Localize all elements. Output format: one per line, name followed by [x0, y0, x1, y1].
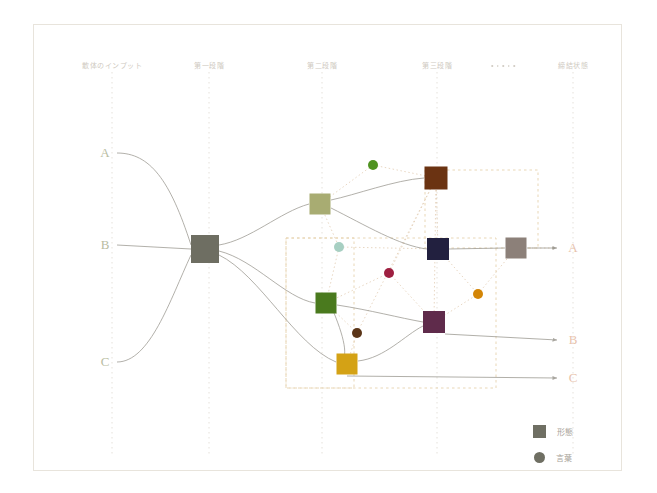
- form-edge: [219, 204, 309, 245]
- input-label-b: B: [101, 237, 110, 253]
- stage-header-stage2: 第二段階: [307, 60, 337, 70]
- form-edge: [331, 208, 427, 249]
- node-square-s2c[interactable]: [423, 311, 445, 333]
- node-circle-c1[interactable]: [368, 160, 378, 170]
- legend: 形態 言葉: [533, 418, 613, 470]
- form-edge: [445, 334, 557, 340]
- form-edge: [358, 326, 423, 361]
- stage-guide-lines: [112, 72, 573, 455]
- stage-header-ellipsis: [491, 65, 515, 67]
- node-circle-c5[interactable]: [352, 328, 362, 338]
- stage-header-stage3: 第三段階: [422, 60, 452, 70]
- node-square-s1c[interactable]: [337, 354, 358, 375]
- node-circle-c3[interactable]: [384, 268, 394, 278]
- form-edge: [117, 255, 191, 362]
- form-edge: [331, 178, 424, 200]
- input-label-a: A: [100, 145, 109, 161]
- node-square-hub[interactable]: [191, 235, 219, 263]
- node-square-s2b[interactable]: [427, 238, 449, 260]
- input-label-c: C: [101, 354, 110, 370]
- form-edge: [219, 251, 315, 303]
- form-edge: [117, 153, 191, 245]
- form-edge: [117, 245, 191, 249]
- form-edges: [117, 153, 557, 378]
- output-label-a: A: [568, 240, 577, 256]
- stage-header-input: 散体のインプット: [82, 60, 142, 70]
- legend-item-form: 形態: [533, 418, 613, 444]
- node-square-outsq[interactable]: [506, 238, 527, 259]
- form-edge: [347, 376, 557, 378]
- legend-label-form: 形態: [557, 426, 573, 437]
- output-label-c: C: [569, 370, 578, 386]
- word-edge: [357, 178, 436, 333]
- node-square-s1b[interactable]: [316, 293, 337, 314]
- node-layer: [191, 160, 527, 375]
- diagram-root: 散体のインプット第一段階第二段階第三段階締結状態 ABCABC 形態 言葉: [0, 0, 657, 493]
- node-square-s2a[interactable]: [425, 167, 448, 190]
- stage-header-stage1: 第一段階: [194, 60, 224, 70]
- node-circle-c2[interactable]: [334, 242, 344, 252]
- form-edge: [337, 305, 423, 322]
- node-square-s1a[interactable]: [310, 194, 331, 215]
- legend-square-swatch: [533, 425, 546, 438]
- output-label-b: B: [569, 332, 578, 348]
- stage-header-output: 締結状態: [558, 60, 588, 70]
- legend-label-word: 言葉: [556, 452, 572, 463]
- node-circle-c4[interactable]: [473, 289, 483, 299]
- legend-circle-swatch: [534, 452, 545, 463]
- legend-item-word: 言葉: [533, 444, 613, 470]
